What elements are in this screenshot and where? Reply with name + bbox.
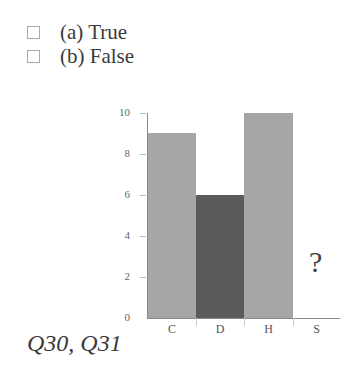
question-caption: Q30, Q31 (27, 330, 122, 357)
tickmark (140, 113, 146, 114)
bar-c (148, 133, 196, 318)
option-false[interactable]: (b) False (27, 44, 134, 69)
option-true-label: (a) True (60, 20, 127, 45)
tickmark (140, 154, 146, 155)
ytick-8: 8 (110, 147, 130, 159)
ytick-0: 0 (110, 311, 130, 323)
xlabel-h: H (244, 322, 293, 337)
tickmark (140, 236, 146, 237)
tickmark (140, 277, 146, 278)
checkbox-true[interactable] (27, 26, 40, 39)
bar-h (244, 113, 293, 318)
unknown-value-marker: ? (309, 245, 322, 279)
ytick-2: 2 (110, 270, 130, 282)
xlabel-c: C (148, 322, 196, 337)
ytick-10: 10 (110, 106, 130, 118)
xlabel-d: D (196, 322, 244, 337)
tickmark (140, 195, 146, 196)
xlabel-s: S (293, 322, 340, 337)
option-false-label: (b) False (60, 44, 134, 69)
ytick-6: 6 (110, 188, 130, 200)
checkbox-false[interactable] (27, 50, 40, 63)
option-true[interactable]: (a) True (27, 20, 127, 45)
ytick-4: 4 (110, 229, 130, 241)
bar-d (196, 195, 244, 318)
